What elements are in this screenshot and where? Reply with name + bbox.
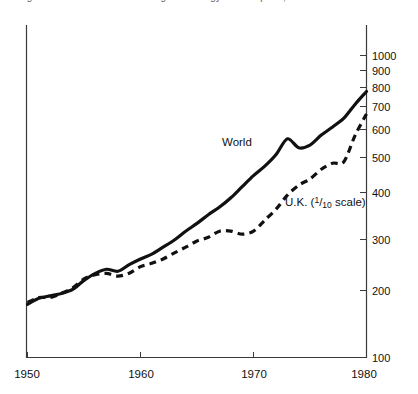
y-axis-tick-labels: 1000 900 800 700 600 500 400 300 200 100 xyxy=(372,50,396,364)
y-tick-label-200: 200 xyxy=(372,285,390,297)
uk-series-label: U.K. (1/10 scale) xyxy=(285,195,366,210)
uk-series-label-denominator: 10 xyxy=(322,200,332,210)
chart-container: Figure 3. World and United Kingdom energ… xyxy=(0,0,418,394)
x-axis-tick-labels: 1950 1960 1970 1980 xyxy=(14,368,377,380)
x-tick-label-1980: 1980 xyxy=(351,368,377,380)
y-tick-label-400: 400 xyxy=(372,187,390,199)
y-tick-label-700: 700 xyxy=(372,101,390,113)
x-tick-label-1950: 1950 xyxy=(14,368,40,380)
svg-text:U.K. (1/10 scale): U.K. (1/10 scale) xyxy=(285,195,366,210)
x-tick-label-1970: 1970 xyxy=(241,368,267,380)
y-tick-label-600: 600 xyxy=(372,124,390,136)
uk-series-label-suffix: scale) xyxy=(332,196,366,208)
x-tick-label-1960: 1960 xyxy=(128,368,154,380)
y-tick-label-1000: 1000 xyxy=(372,50,396,62)
chart-plot: 1000 900 800 700 600 500 400 300 200 100… xyxy=(0,0,418,394)
y-tick-label-500: 500 xyxy=(372,152,390,164)
y-tick-label-100: 100 xyxy=(372,352,390,364)
world-series-label: World xyxy=(222,136,252,148)
y-tick-label-900: 900 xyxy=(372,65,390,77)
uk-series-label-prefix: U.K. ( xyxy=(285,196,315,208)
y-tick-label-800: 800 xyxy=(372,82,390,94)
y-tick-label-300: 300 xyxy=(372,234,390,246)
